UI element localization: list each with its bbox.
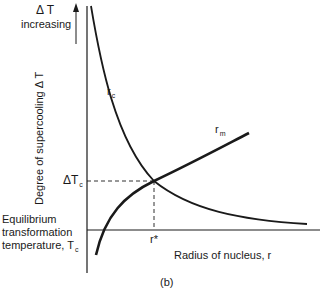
delta-tc-sub: c (79, 181, 83, 188)
equilibrium-label-sub: c (75, 246, 79, 253)
x-axis-label: Radius of nucleus, r (174, 249, 271, 261)
equilibrium-label-main: temperature, T (2, 239, 74, 251)
equilibrium-label-line3: temperature, Tc (2, 239, 78, 253)
equilibrium-label-line2: transformation (2, 226, 72, 238)
rc-label-sub: c (112, 92, 116, 99)
y-axis-label: Degree of supercooling Δ T (33, 72, 45, 205)
r-star-label: r* (150, 233, 158, 245)
rc-label: rc (107, 85, 115, 99)
top-delta-t-label: Δ T (36, 4, 54, 16)
rc-label-main: r (107, 85, 111, 97)
increasing-arrow-head (73, 3, 79, 12)
delta-tc-label: ΔTc (63, 174, 83, 188)
rm-label-main: r (215, 123, 219, 135)
top-increasing-label: increasing (21, 18, 71, 30)
rc-curve (91, 6, 307, 224)
equilibrium-label-line1: Equilibrium (2, 213, 56, 225)
rm-label: rm (215, 123, 226, 137)
rm-label-sub: m (220, 130, 226, 137)
delta-tc-main: ΔT (63, 173, 78, 187)
panel-label: (b) (160, 276, 173, 288)
